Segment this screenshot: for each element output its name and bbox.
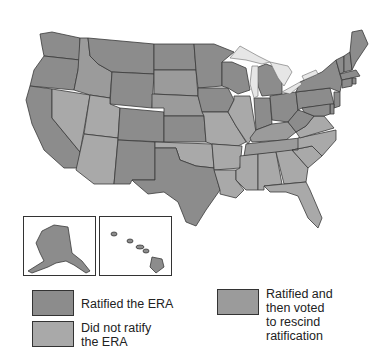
legend-label-ratified: Ratified the ERA	[81, 297, 173, 311]
legend-swatch-not-ratified	[32, 321, 74, 347]
state-kansas	[164, 116, 206, 142]
legend-swatch-ratified	[32, 290, 74, 316]
state-wyoming	[110, 72, 154, 108]
legend-label-not-ratified: Did not ratify the ERA	[81, 321, 151, 349]
state-north-dakota	[154, 44, 196, 70]
legend-swatch-rescinded	[217, 289, 259, 315]
lake-michigan	[250, 66, 258, 98]
state-alaska	[28, 225, 90, 273]
state-maine	[350, 30, 368, 70]
state-connecticut	[342, 78, 352, 88]
lake-superior	[230, 46, 270, 64]
state-delaware	[330, 104, 334, 114]
state-iowa	[198, 88, 234, 112]
state-arizona	[76, 134, 118, 184]
state-hawaii	[111, 232, 164, 273]
state-south-dakota	[154, 70, 198, 96]
state-new-jersey	[334, 92, 340, 108]
states-layer	[26, 30, 368, 228]
alaska-map	[24, 217, 95, 275]
state-colorado	[118, 108, 164, 142]
state-new-mexico	[114, 140, 155, 184]
legend-label-rescinded: Ratified and then voted to rescind ratif…	[266, 287, 333, 343]
state-oregon	[30, 56, 80, 90]
state-florida	[264, 182, 322, 228]
hawaii-inset	[99, 216, 172, 276]
alaska-inset	[23, 216, 96, 276]
state-rhode-island	[352, 78, 356, 84]
state-arkansas	[212, 144, 242, 170]
state-washington	[40, 32, 80, 60]
hawaii-map	[100, 217, 171, 275]
